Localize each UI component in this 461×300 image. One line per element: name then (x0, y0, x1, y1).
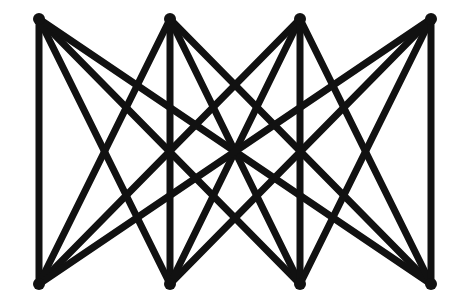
edges-group (39, 19, 431, 284)
node-t4 (425, 13, 437, 25)
node-b2 (164, 278, 176, 290)
node-b3 (294, 278, 306, 290)
node-b4 (425, 278, 437, 290)
node-t1 (33, 13, 45, 25)
bipartite-graph (0, 0, 461, 300)
node-b1 (33, 278, 45, 290)
node-t2 (164, 13, 176, 25)
node-t3 (294, 13, 306, 25)
graph-canvas (0, 0, 461, 300)
